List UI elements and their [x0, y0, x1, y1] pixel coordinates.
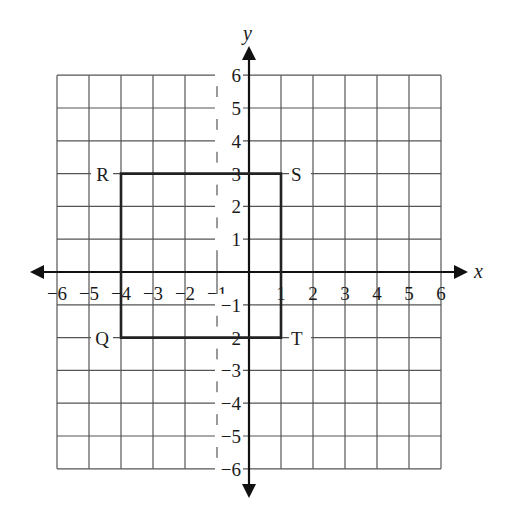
x-tick-label: 5	[404, 283, 414, 304]
y-tick-label: 1	[232, 229, 242, 250]
vertex-label-R: R	[96, 164, 109, 185]
coordinate-plane: xy−6−5−4−3−2−1123456654321−1−2−3−4−5−6RS…	[0, 0, 507, 523]
y-tick-label: −6	[221, 459, 241, 480]
y-axis-down-arrow-icon	[242, 484, 256, 498]
x-tick-label: 4	[372, 283, 382, 304]
x-tick-label: −3	[143, 283, 163, 304]
y-tick-label: −3	[221, 360, 241, 381]
y-tick-label: −1	[221, 295, 241, 316]
y-tick-label: −5	[221, 426, 241, 447]
y-tick-label: 4	[232, 131, 242, 152]
y-axis-up-arrow-icon	[242, 46, 256, 60]
y-tick-label: 5	[232, 98, 242, 119]
y-tick-label: 6	[232, 65, 242, 86]
vertex-label-T: T	[291, 328, 303, 349]
y-tick-label: −4	[221, 393, 242, 414]
x-axis-label: x	[473, 260, 483, 282]
x-tick-label: 3	[340, 283, 350, 304]
vertex-label-Q: Q	[95, 328, 109, 349]
y-tick-label: 2	[232, 196, 242, 217]
x-axis-right-arrow-icon	[454, 265, 468, 279]
x-tick-label: 2	[308, 283, 318, 304]
y-axis-label: y	[241, 22, 252, 45]
x-tick-label: −6	[47, 283, 67, 304]
x-tick-label: −2	[175, 283, 195, 304]
x-axis-left-arrow-icon	[30, 265, 44, 279]
vertex-label-S: S	[291, 164, 302, 185]
x-tick-label: 6	[436, 283, 446, 304]
x-tick-label: −5	[79, 283, 99, 304]
rectangle-QRST	[121, 174, 281, 338]
